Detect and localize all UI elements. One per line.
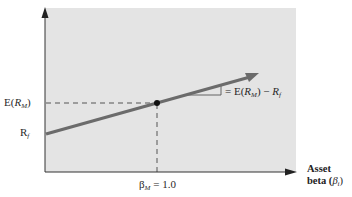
- slope-sub2: f: [279, 91, 281, 99]
- xaxis-line2-text: beta (: [307, 175, 332, 186]
- x-axis-title: Asset beta (βi): [307, 163, 343, 190]
- market-point: [154, 100, 160, 106]
- xaxis-line2: beta (βi): [307, 175, 343, 190]
- y-label-erm: E(RM): [4, 96, 31, 112]
- x-tick-beta-m: βM = 1.0: [139, 178, 176, 194]
- xaxis-close: ): [340, 175, 344, 186]
- erm-base: E(: [4, 96, 14, 108]
- rf-sub: f: [27, 132, 29, 140]
- y-label-rf: Rf: [20, 126, 29, 142]
- erm-close: ): [27, 96, 31, 108]
- xaxis-line1: Asset: [307, 163, 343, 175]
- slope-eq: = E(: [225, 85, 244, 97]
- slope-mid: ) −: [257, 85, 272, 97]
- slope-annotation: = E(RM) − Rf: [225, 85, 281, 101]
- xtick-rest: = 1.0: [150, 178, 175, 190]
- sml-chart: [0, 0, 352, 197]
